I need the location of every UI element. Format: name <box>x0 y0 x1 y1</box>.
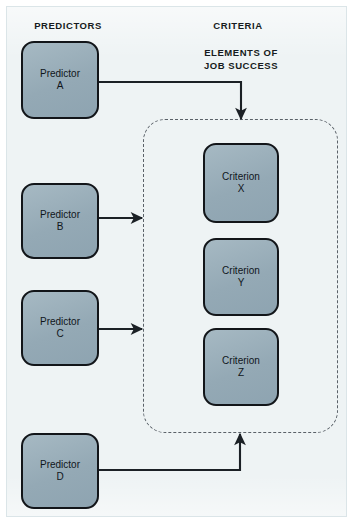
node-predictor-d-line-1: Predictor <box>40 459 80 472</box>
node-predictor-b-line-2: B <box>57 221 64 234</box>
node-criterion-z[interactable]: Criterion Z <box>203 328 279 406</box>
header-predictors: PREDICTORS <box>16 20 120 31</box>
header-elements-of-job-success: ELEMENTS OF JOB SUCCESS <box>186 47 296 72</box>
node-predictor-c[interactable]: Predictor C <box>21 290 99 366</box>
node-predictor-d-line-2: D <box>56 471 63 484</box>
node-criterion-y-line-2: Y <box>238 277 245 290</box>
node-predictor-d[interactable]: Predictor D <box>21 433 99 509</box>
diagram-canvas: PREDICTORS CRITERIA ELEMENTS OF JOB SUCC… <box>0 0 355 525</box>
header-elements-line-1: ELEMENTS OF <box>204 47 278 58</box>
node-predictor-a-line-2: A <box>57 80 64 93</box>
node-criterion-z-line-1: Criterion <box>222 355 260 368</box>
node-predictor-a-line-1: Predictor <box>40 68 80 81</box>
node-predictor-c-line-1: Predictor <box>40 316 80 329</box>
header-criteria: CRITERIA <box>186 20 290 31</box>
node-predictor-b[interactable]: Predictor B <box>21 183 99 259</box>
node-criterion-x-line-1: Criterion <box>222 171 260 184</box>
node-criterion-z-line-2: Z <box>238 367 244 380</box>
node-predictor-c-line-2: C <box>56 328 63 341</box>
header-elements-line-2: JOB SUCCESS <box>204 60 278 71</box>
node-criterion-x-line-2: X <box>238 183 245 196</box>
node-criterion-y-line-1: Criterion <box>222 265 260 278</box>
node-criterion-x[interactable]: Criterion X <box>203 143 279 223</box>
node-predictor-b-line-1: Predictor <box>40 209 80 222</box>
node-criterion-y[interactable]: Criterion Y <box>203 238 279 316</box>
node-predictor-a[interactable]: Predictor A <box>21 41 99 119</box>
